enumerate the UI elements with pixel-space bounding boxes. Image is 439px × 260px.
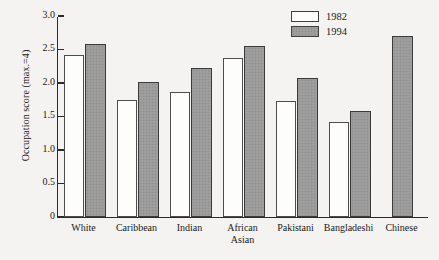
bar-group bbox=[58, 17, 111, 217]
bar-1982 bbox=[276, 101, 297, 217]
legend-item-1994: 1994 bbox=[291, 26, 347, 37]
bar-group bbox=[164, 17, 217, 217]
bar-1994 bbox=[191, 68, 212, 217]
bar-1994 bbox=[392, 36, 413, 217]
bar-1982 bbox=[64, 55, 85, 217]
bar-1994 bbox=[350, 111, 371, 217]
bar-1994 bbox=[244, 46, 265, 217]
legend-label-1994: 1994 bbox=[326, 26, 347, 37]
y-tick-label: 1.5 bbox=[43, 109, 56, 120]
bar-1994 bbox=[297, 78, 318, 217]
legend-label-1982: 1982 bbox=[326, 11, 347, 22]
bar-group bbox=[111, 17, 164, 217]
plot-area: 00.51.01.52.02.53.0 bbox=[57, 17, 428, 218]
bar-group bbox=[376, 17, 429, 217]
bar-1994 bbox=[85, 44, 106, 217]
y-tick-label: 2.0 bbox=[43, 76, 56, 87]
y-tick-label: 2.5 bbox=[43, 42, 56, 53]
bar-series-container bbox=[58, 17, 428, 217]
legend-swatch-1994 bbox=[291, 26, 319, 37]
y-tick-label: 0 bbox=[50, 210, 55, 221]
x-label-chinese: Chinese bbox=[363, 222, 439, 234]
bar-1994 bbox=[138, 82, 159, 217]
legend-item-1982: 1982 bbox=[291, 11, 347, 22]
bar-group bbox=[323, 17, 376, 217]
occupation-score-bar-chart: Occupation score (max.=4) 00.51.01.52.02… bbox=[0, 0, 439, 260]
y-tick-label: 0.5 bbox=[43, 176, 56, 187]
bar-1982 bbox=[170, 92, 191, 217]
y-tick-label: 3.0 bbox=[43, 9, 56, 20]
legend: 1982 1994 bbox=[291, 11, 347, 41]
bar-group bbox=[217, 17, 270, 217]
bar-1982 bbox=[223, 58, 244, 217]
bar-1982 bbox=[117, 100, 138, 217]
y-axis-label: Occupation score (max.=4) bbox=[20, 21, 31, 191]
y-tick-label: 1.0 bbox=[43, 143, 56, 154]
legend-swatch-1982 bbox=[291, 11, 319, 22]
bar-1982 bbox=[329, 122, 350, 217]
bar-group bbox=[270, 17, 323, 217]
